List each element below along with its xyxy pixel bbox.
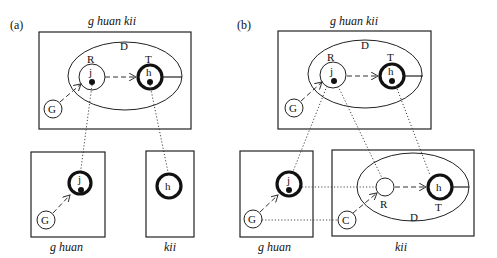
panel-a-br-node-h-text: h — [165, 180, 171, 192]
panel-a-node-h-dot — [147, 79, 153, 85]
diagram-canvas: (a) g huan kii D R j T h G g huan j G — [0, 0, 497, 258]
panel-a-bl-arrow-g-to-j — [53, 195, 70, 213]
panel-b-bl-node-j-dot — [286, 187, 292, 193]
panel-a-region-d-label: D — [120, 40, 128, 52]
panel-b-top-title: g huan kii — [330, 14, 378, 28]
panel-a-node-t-label: T — [145, 53, 152, 65]
panel-b-br-arrow-c-to-r — [353, 193, 377, 213]
panel-b-link-j-to-r — [338, 86, 382, 178]
panel-b-br-node-c-text: C — [342, 214, 349, 226]
panel-a: (a) g huan kii D R j T h G g huan j G — [10, 14, 194, 254]
panel-b-br-node-h-text: h — [436, 181, 442, 193]
panel-b-bl-node-g-text: G — [248, 213, 256, 225]
panel-b-node-j-dot — [331, 78, 337, 84]
panel-a-bl-node-g-text: G — [41, 214, 49, 226]
panel-a-node-j-text: j — [88, 66, 92, 78]
panel-a-bl-node-j-dot — [78, 187, 84, 193]
panel-b-link-h — [396, 86, 430, 175]
panel-b-br-node-r — [376, 178, 394, 196]
panel-b-bl-arrow-g-to-j — [260, 195, 278, 212]
panel-a-node-g-text: G — [48, 103, 56, 115]
panel-a-node-h-text: h — [146, 66, 152, 78]
panel-a-bottom-right-title: kii — [164, 240, 176, 254]
panel-b-br-region-d-label: D — [410, 211, 418, 223]
panel-b-node-t-label: T — [387, 51, 394, 63]
panel-b-br-node-t-label: T — [435, 201, 442, 213]
panel-b-node-j-text: j — [329, 65, 333, 77]
panel-b-node-r-label: R — [327, 51, 335, 63]
panel-b-region-d-label: D — [361, 39, 369, 51]
panel-b: (b) g huan kii D R j T h G g huan j G — [237, 14, 474, 254]
panel-a-bottom-left-title: g huan — [50, 240, 83, 254]
panel-b-br-node-r-label: R — [380, 198, 388, 210]
panel-a-label: (a) — [10, 18, 23, 32]
panel-b-node-g-text: G — [289, 102, 297, 114]
panel-b-bl-node-j-text: j — [286, 174, 290, 186]
panel-a-bl-node-j-text: j — [77, 173, 81, 185]
panel-b-label: (b) — [237, 18, 251, 32]
panel-a-top-title: g huan kii — [88, 14, 136, 28]
panel-b-node-h-text: h — [388, 65, 394, 77]
panel-a-node-j-dot — [89, 79, 95, 85]
panel-b-arrow-g-to-j — [301, 82, 322, 101]
panel-b-bottom-right-title: kii — [395, 240, 407, 254]
panel-a-top-box — [39, 32, 191, 129]
panel-b-bottom-left-title: g huan — [258, 240, 291, 254]
panel-a-node-r-label: R — [87, 53, 95, 65]
panel-b-node-h-dot — [389, 78, 395, 84]
